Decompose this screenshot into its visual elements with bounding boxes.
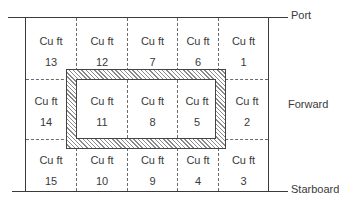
compartment-number: 7 bbox=[128, 56, 177, 69]
unit-label: Cu ft bbox=[128, 95, 177, 108]
unit-label: Cu ft bbox=[26, 35, 76, 48]
compartment-cell: Cu ft 15 bbox=[26, 154, 76, 188]
port-boundary-line bbox=[8, 17, 288, 18]
compartment-cell: Cu ft 1 bbox=[219, 35, 268, 69]
compartment-cell: Cu ft 12 bbox=[77, 35, 127, 69]
unit-label: Cu ft bbox=[128, 35, 177, 48]
compartment-cell: Cu ft 2 bbox=[226, 95, 268, 129]
unit-label: Cu ft bbox=[77, 154, 127, 167]
unit-label: Cu ft bbox=[226, 95, 268, 108]
starboard-boundary-line bbox=[12, 191, 288, 192]
compartment-cell: Cu ft 6 bbox=[178, 35, 218, 69]
compartment-cell: Cu ft 13 bbox=[26, 35, 76, 69]
compartment-cell: Cu ft 3 bbox=[219, 154, 268, 188]
unit-label: Cu ft bbox=[219, 154, 268, 167]
unit-label: Cu ft bbox=[26, 95, 66, 108]
unit-label: Cu ft bbox=[219, 35, 268, 48]
compartment-number: 9 bbox=[128, 175, 177, 188]
port-label: Port bbox=[291, 9, 311, 21]
unit-label: Cu ft bbox=[77, 95, 127, 108]
compartment-cell: Cu ft 4 bbox=[178, 154, 218, 188]
compartment-cell: Cu ft 8 bbox=[128, 95, 177, 129]
compartment-number: 8 bbox=[128, 116, 177, 129]
unit-label: Cu ft bbox=[77, 35, 127, 48]
compartment-number: 6 bbox=[178, 56, 218, 69]
compartment-cell: Cu ft 10 bbox=[77, 154, 127, 188]
compartment-number: 12 bbox=[77, 56, 127, 69]
unit-label: Cu ft bbox=[178, 154, 218, 167]
compartment-number: 11 bbox=[77, 116, 127, 129]
compartment-number: 13 bbox=[26, 56, 76, 69]
unit-label: Cu ft bbox=[128, 154, 177, 167]
compartment-cell: Cu ft 14 bbox=[26, 95, 66, 129]
compartment-number: 10 bbox=[77, 175, 127, 188]
compartment-number: 5 bbox=[178, 116, 216, 129]
unit-label: Cu ft bbox=[26, 154, 76, 167]
compartment-cell: Cu ft 11 bbox=[77, 95, 127, 129]
compartment-number: 1 bbox=[219, 56, 268, 69]
compartment-number: 14 bbox=[26, 116, 66, 129]
unit-label: Cu ft bbox=[178, 35, 218, 48]
compartment-number: 2 bbox=[226, 116, 268, 129]
right-boundary-line bbox=[268, 17, 269, 192]
forward-label: Forward bbox=[288, 98, 328, 110]
compartment-number: 3 bbox=[219, 175, 268, 188]
compartment-cell: Cu ft 7 bbox=[128, 35, 177, 69]
compartment-number: 4 bbox=[178, 175, 218, 188]
starboard-label: Starboard bbox=[291, 183, 339, 195]
compartment-cell: Cu ft 9 bbox=[128, 154, 177, 188]
compartment-number: 15 bbox=[26, 175, 76, 188]
compartment-cell: Cu ft 5 bbox=[178, 95, 216, 129]
unit-label: Cu ft bbox=[178, 95, 216, 108]
